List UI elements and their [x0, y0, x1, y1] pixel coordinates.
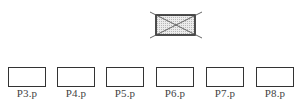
node-label: P5.p: [105, 87, 145, 99]
crossed-out-box-icon: [149, 11, 205, 39]
node-box: [106, 67, 144, 87]
node-box: [256, 67, 294, 87]
node-box: [206, 67, 244, 87]
node-label: P8.p: [255, 87, 295, 99]
node-label: P3.p: [7, 87, 47, 99]
node-box: [57, 67, 95, 87]
node-label: P6.p: [155, 87, 195, 99]
node-box: [156, 67, 194, 87]
node-label: P4.p: [56, 87, 96, 99]
node-box: [8, 67, 46, 87]
node-label: P7.p: [205, 87, 245, 99]
